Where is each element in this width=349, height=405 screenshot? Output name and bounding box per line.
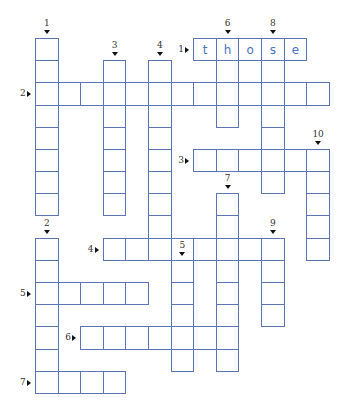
grid-cell[interactable] xyxy=(103,326,127,349)
grid-cell[interactable] xyxy=(306,82,330,105)
grid-cell[interactable] xyxy=(35,127,59,150)
grid-cell[interactable] xyxy=(193,82,217,105)
grid-cell[interactable] xyxy=(35,60,59,83)
grid-cell[interactable] xyxy=(80,82,104,105)
grid-cell[interactable] xyxy=(261,127,285,150)
grid-cell[interactable] xyxy=(103,171,127,194)
grid-cell[interactable] xyxy=(284,82,308,105)
grid-cell[interactable] xyxy=(216,326,240,349)
down-arrow-icon xyxy=(112,52,118,56)
grid-cell[interactable]: t xyxy=(193,38,217,61)
grid-cell[interactable] xyxy=(35,105,59,128)
grid-cell[interactable] xyxy=(171,349,195,372)
grid-cell[interactable] xyxy=(35,282,59,305)
grid-cell[interactable]: h xyxy=(216,38,240,61)
grid-cell[interactable] xyxy=(261,149,285,172)
grid-cell[interactable] xyxy=(148,149,172,172)
grid-cell[interactable] xyxy=(193,238,217,261)
grid-cell[interactable] xyxy=(58,371,82,394)
grid-cell[interactable] xyxy=(216,82,240,105)
grid-cell[interactable] xyxy=(35,371,59,394)
grid-cell[interactable] xyxy=(35,349,59,372)
grid-cell[interactable] xyxy=(148,215,172,238)
grid-cell[interactable] xyxy=(148,82,172,105)
grid-cell[interactable] xyxy=(216,215,240,238)
grid-cell[interactable] xyxy=(103,282,127,305)
grid-cell[interactable] xyxy=(171,326,195,349)
grid-cell[interactable] xyxy=(238,149,262,172)
grid-cell[interactable] xyxy=(261,238,285,261)
down-arrow-icon xyxy=(225,185,231,189)
grid-cell[interactable] xyxy=(216,105,240,128)
grid-cell[interactable] xyxy=(148,193,172,216)
grid-cell[interactable] xyxy=(35,171,59,194)
grid-cell[interactable] xyxy=(58,82,82,105)
grid-cell[interactable] xyxy=(238,82,262,105)
grid-cell[interactable] xyxy=(193,326,217,349)
grid-cell[interactable] xyxy=(103,127,127,150)
grid-cell[interactable] xyxy=(103,238,127,261)
grid-cell[interactable] xyxy=(103,193,127,216)
grid-cell[interactable] xyxy=(171,304,195,327)
grid-cell[interactable] xyxy=(35,82,59,105)
grid-cell[interactable] xyxy=(261,171,285,194)
grid-cell[interactable]: s xyxy=(261,38,285,61)
grid-cell[interactable] xyxy=(103,105,127,128)
grid-cell[interactable] xyxy=(193,149,217,172)
down-arrow-icon xyxy=(44,30,50,34)
grid-cell[interactable] xyxy=(148,105,172,128)
grid-cell[interactable] xyxy=(148,127,172,150)
grid-cell[interactable] xyxy=(148,60,172,83)
grid-cell[interactable] xyxy=(125,326,149,349)
grid-cell[interactable] xyxy=(80,326,104,349)
grid-cell[interactable] xyxy=(103,149,127,172)
grid-cell[interactable] xyxy=(125,82,149,105)
grid-cell[interactable] xyxy=(35,260,59,283)
grid-cell[interactable] xyxy=(148,171,172,194)
grid-cell[interactable] xyxy=(148,238,172,261)
grid-cell[interactable] xyxy=(306,193,330,216)
grid-cell[interactable] xyxy=(35,326,59,349)
grid-cell[interactable] xyxy=(216,304,240,327)
grid-cell[interactable] xyxy=(80,371,104,394)
grid-cell[interactable] xyxy=(35,149,59,172)
grid-cell[interactable]: e xyxy=(284,38,308,61)
grid-cell[interactable] xyxy=(103,60,127,83)
grid-cell[interactable] xyxy=(58,282,82,305)
grid-cell[interactable] xyxy=(261,282,285,305)
grid-cell[interactable] xyxy=(35,238,59,261)
grid-cell[interactable] xyxy=(216,193,240,216)
grid-cell[interactable] xyxy=(306,171,330,194)
grid-cell[interactable] xyxy=(80,282,104,305)
grid-cell[interactable] xyxy=(125,238,149,261)
grid-cell[interactable] xyxy=(148,326,172,349)
grid-cell[interactable] xyxy=(261,260,285,283)
grid-cell[interactable]: o xyxy=(238,38,262,61)
down-arrow-icon xyxy=(179,252,185,256)
grid-cell[interactable] xyxy=(261,105,285,128)
grid-cell[interactable] xyxy=(261,304,285,327)
grid-cell[interactable] xyxy=(171,260,195,283)
grid-cell[interactable] xyxy=(306,238,330,261)
grid-cell[interactable] xyxy=(238,238,262,261)
grid-cell[interactable] xyxy=(306,215,330,238)
grid-cell[interactable] xyxy=(125,282,149,305)
grid-cell[interactable] xyxy=(261,82,285,105)
grid-cell[interactable] xyxy=(35,38,59,61)
grid-cell[interactable] xyxy=(216,260,240,283)
grid-cell[interactable] xyxy=(171,282,195,305)
grid-cell[interactable] xyxy=(216,282,240,305)
grid-cell[interactable] xyxy=(261,60,285,83)
grid-cell[interactable] xyxy=(103,82,127,105)
grid-cell[interactable] xyxy=(216,349,240,372)
grid-cell[interactable] xyxy=(35,193,59,216)
grid-cell[interactable] xyxy=(216,149,240,172)
grid-cell[interactable] xyxy=(103,371,127,394)
grid-cell[interactable] xyxy=(171,82,195,105)
grid-cell[interactable] xyxy=(35,304,59,327)
grid-cell[interactable] xyxy=(216,60,240,83)
grid-cell[interactable] xyxy=(306,149,330,172)
across-arrow-icon xyxy=(27,380,31,386)
grid-cell[interactable] xyxy=(216,238,240,261)
grid-cell[interactable] xyxy=(284,149,308,172)
